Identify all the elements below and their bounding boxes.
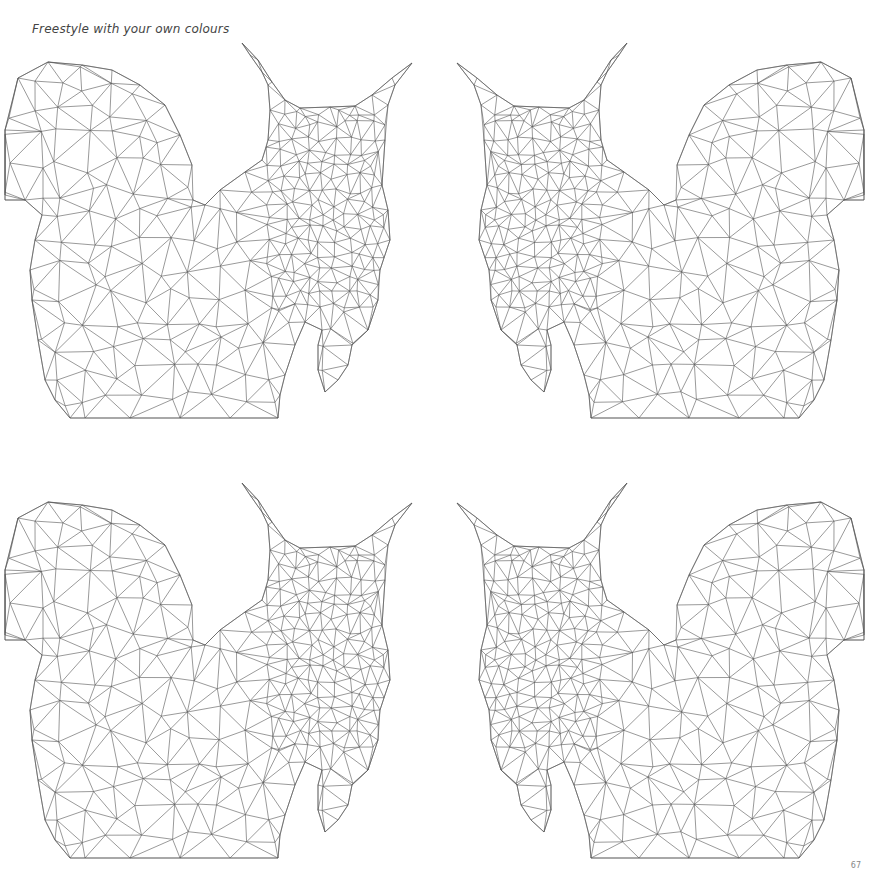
coloring-illustration [0, 0, 869, 872]
page-number: 67 [851, 861, 861, 870]
squirrel-bottom-right [457, 483, 864, 858]
squirrel-top-right [457, 43, 864, 418]
squirrel-top-left [5, 43, 412, 418]
squirrel-bottom-left [5, 483, 412, 858]
